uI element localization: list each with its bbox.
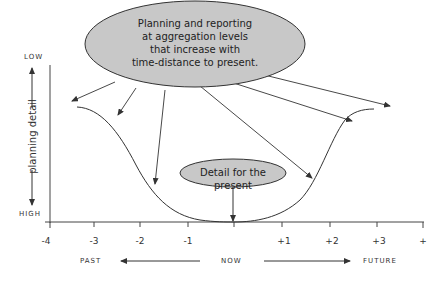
tick-label: + <box>419 236 427 246</box>
now-label: NOW <box>221 257 242 265</box>
x-axis-ticks <box>50 222 423 228</box>
aggregation-bubble-text: Planning and reporting at aggregation le… <box>95 17 295 69</box>
present-bubble-text: Detail for the present <box>183 166 283 192</box>
y-axis-high-label: HIGH <box>19 210 41 218</box>
tick-label: -2 <box>136 236 145 246</box>
tick-label: -3 <box>90 236 99 246</box>
tick-label: +3 <box>372 236 385 246</box>
tick-label: -4 <box>42 236 51 246</box>
tick-label: -1 <box>184 236 193 246</box>
past-label: PAST <box>80 257 101 265</box>
y-axis-title: planning detail <box>27 99 38 175</box>
bubble-line-1: Planning and reporting <box>95 17 295 30</box>
tick-label: +2 <box>325 236 338 246</box>
bubble-line-2: at aggregation levels <box>95 30 295 43</box>
bubble-line-4: time-distance to present. <box>95 56 295 69</box>
tick-label: +1 <box>277 236 290 246</box>
future-label: FUTURE <box>363 257 397 265</box>
bubble-line-3: that increase with <box>95 43 295 56</box>
y-axis-low-label: LOW <box>24 53 43 61</box>
